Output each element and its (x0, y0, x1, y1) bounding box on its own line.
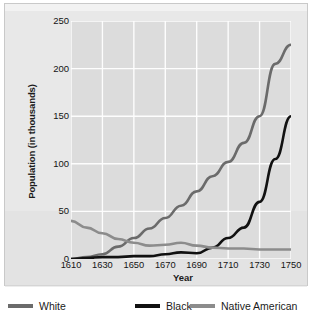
x-tick-label: 1610 (54, 260, 88, 270)
plot-area (71, 21, 291, 259)
legend-label: White (39, 300, 66, 312)
legend-item[interactable]: Native American (190, 300, 297, 312)
y-tick-label: 100 (35, 159, 69, 169)
x-tick-label: 1750 (274, 260, 308, 270)
legend-label: Native American (221, 300, 297, 312)
x-tick-label: 1650 (117, 260, 151, 270)
legend-label: Black (166, 300, 192, 312)
plot-lines (71, 21, 291, 259)
y-tick-label: 200 (35, 64, 69, 74)
y-tick-label: 50 (35, 206, 69, 216)
chart-figure: Population (in thousands) 05010015020025… (0, 0, 312, 321)
chart-legend: WhiteBlackNative American (0, 295, 312, 317)
x-tick-label: 1670 (148, 260, 182, 270)
y-tick-label: 250 (35, 16, 69, 26)
legend-swatch-icon (135, 304, 160, 308)
y-axis-ticks: 050100150200250 (31, 4, 69, 287)
legend-item[interactable]: White (8, 300, 66, 312)
x-tick-label: 1630 (85, 260, 119, 270)
x-tick-label: 1690 (180, 260, 214, 270)
figure-panel: Population (in thousands) 05010015020025… (4, 3, 308, 286)
y-tick-label: 150 (35, 111, 69, 121)
x-tick-label: 1710 (211, 260, 245, 270)
legend-item[interactable]: Black (135, 300, 192, 312)
legend-swatch-icon (190, 304, 215, 308)
x-axis-label: Year (73, 272, 293, 283)
legend-swatch-icon (8, 304, 33, 308)
x-tick-label: 1730 (243, 260, 277, 270)
